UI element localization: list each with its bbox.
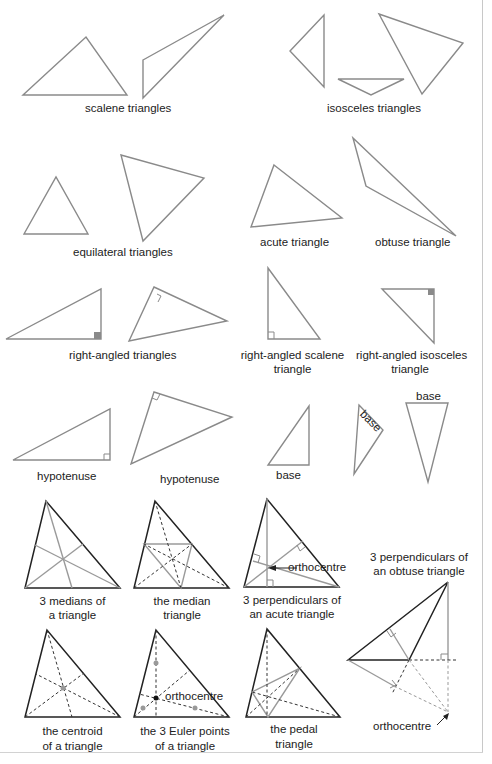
label-hypotenuse-2: hypotenuse bbox=[160, 472, 219, 486]
label-orthocentre-acute: orthocentre bbox=[288, 560, 346, 574]
label-scalene: scalene triangles bbox=[85, 101, 171, 115]
label-base-1: base bbox=[276, 468, 301, 482]
label-perp-acute-line1: 3 perpendiculars of bbox=[236, 593, 348, 607]
isosceles-triangle-3 bbox=[379, 14, 463, 94]
hypotenuse-triangle-1 bbox=[13, 409, 110, 460]
median-triangle bbox=[134, 501, 229, 588]
triangle-types-diagram: scalene triangles isosceles triangles eq… bbox=[0, 0, 492, 764]
centroid-triangle bbox=[25, 630, 120, 717]
label-perp-obtuse-line1: 3 perpendiculars of bbox=[364, 550, 474, 564]
label-median-triangle-line2: triangle bbox=[130, 608, 234, 622]
isosceles-triangle-1 bbox=[290, 15, 324, 87]
scalene-triangle-2 bbox=[143, 15, 224, 98]
euler-points-triangle bbox=[134, 630, 229, 717]
isosceles-triangle-2 bbox=[338, 79, 404, 95]
equilateral-triangle-2 bbox=[121, 155, 204, 241]
label-medians-line1: 3 medians of bbox=[20, 594, 125, 608]
obtuse-perpendiculars-triangle bbox=[348, 582, 458, 725]
label-medians-line2: a triangle bbox=[20, 608, 125, 622]
label-obtuse: obtuse triangle bbox=[375, 235, 450, 249]
right-angled-triangle-1 bbox=[6, 289, 101, 339]
label-acute: acute triangle bbox=[260, 235, 329, 249]
label-orthocentre-obtuse: orthocentre bbox=[373, 719, 431, 733]
label-right-scalene-line2: triangle bbox=[240, 362, 345, 376]
medians-triangle bbox=[25, 501, 120, 588]
label-right-scalene-line1: right-angled scalene bbox=[240, 348, 345, 362]
label-right-isosceles-line1: right-angled isosceles bbox=[356, 348, 464, 362]
label-euler-line1: the 3 Euler points bbox=[130, 724, 240, 738]
label-median-triangle-line1: the median bbox=[130, 594, 234, 608]
label-centroid-line1: the centroid bbox=[20, 724, 125, 738]
scalene-triangle-1 bbox=[23, 37, 127, 95]
acute-triangle bbox=[251, 165, 342, 227]
right-angled-triangle-2 bbox=[129, 287, 227, 341]
label-pedal-line1: the pedal bbox=[244, 722, 344, 736]
label-hypotenuse-1: hypotenuse bbox=[37, 469, 96, 483]
label-right-isosceles-line2: triangle bbox=[356, 362, 464, 376]
label-perp-acute-line2: an acute triangle bbox=[236, 607, 348, 621]
hypotenuse-triangle-2 bbox=[131, 392, 232, 464]
label-euler-line2: of a triangle bbox=[130, 739, 240, 753]
equilateral-triangle-1 bbox=[24, 177, 88, 234]
pedal-triangle bbox=[246, 629, 340, 717]
label-centroid-line2: of a triangle bbox=[20, 739, 125, 753]
base-triangle-3 bbox=[406, 403, 448, 482]
label-isosceles: isosceles triangles bbox=[327, 101, 421, 115]
obtuse-triangle bbox=[353, 138, 456, 236]
label-base-3: base bbox=[416, 389, 441, 403]
label-orthocentre-euler: orthocentre bbox=[165, 689, 223, 703]
label-pedal-line2: triangle bbox=[244, 737, 344, 751]
base-triangle-1 bbox=[268, 406, 309, 465]
label-perp-obtuse-line2: an obtuse triangle bbox=[364, 564, 474, 578]
label-right-angled: right-angled triangles bbox=[69, 348, 176, 362]
right-angled-isosceles-triangle bbox=[382, 289, 434, 343]
label-equilateral: equilateral triangles bbox=[73, 245, 173, 259]
right-angled-scalene-triangle bbox=[268, 268, 320, 339]
